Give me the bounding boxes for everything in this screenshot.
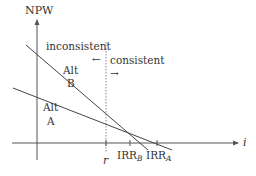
irr-b-main: IRR: [117, 149, 137, 161]
irr-b-label: IRRB: [117, 150, 142, 163]
inconsistent-label: inconsistent: [46, 41, 111, 52]
r-label: r: [103, 155, 108, 166]
y-axis-label: NPW: [25, 5, 53, 16]
right-arrow-icon: →: [110, 68, 119, 79]
alt-b-label-line1: Alt: [63, 65, 78, 76]
irr-a-main: IRR: [146, 149, 166, 161]
x-axis-label: i: [243, 137, 247, 148]
irr-b-sub: B: [137, 154, 143, 163]
alt-b-label-line2: B: [67, 78, 75, 89]
left-arrow-icon: ←: [92, 54, 101, 65]
irr-a-sub: A: [166, 154, 171, 163]
alt-a-label-line2: A: [47, 116, 55, 127]
alt-a-label-line1: Alt: [43, 102, 58, 113]
consistent-label: consistent: [110, 55, 165, 66]
irr-a-label: IRRA: [146, 150, 171, 163]
